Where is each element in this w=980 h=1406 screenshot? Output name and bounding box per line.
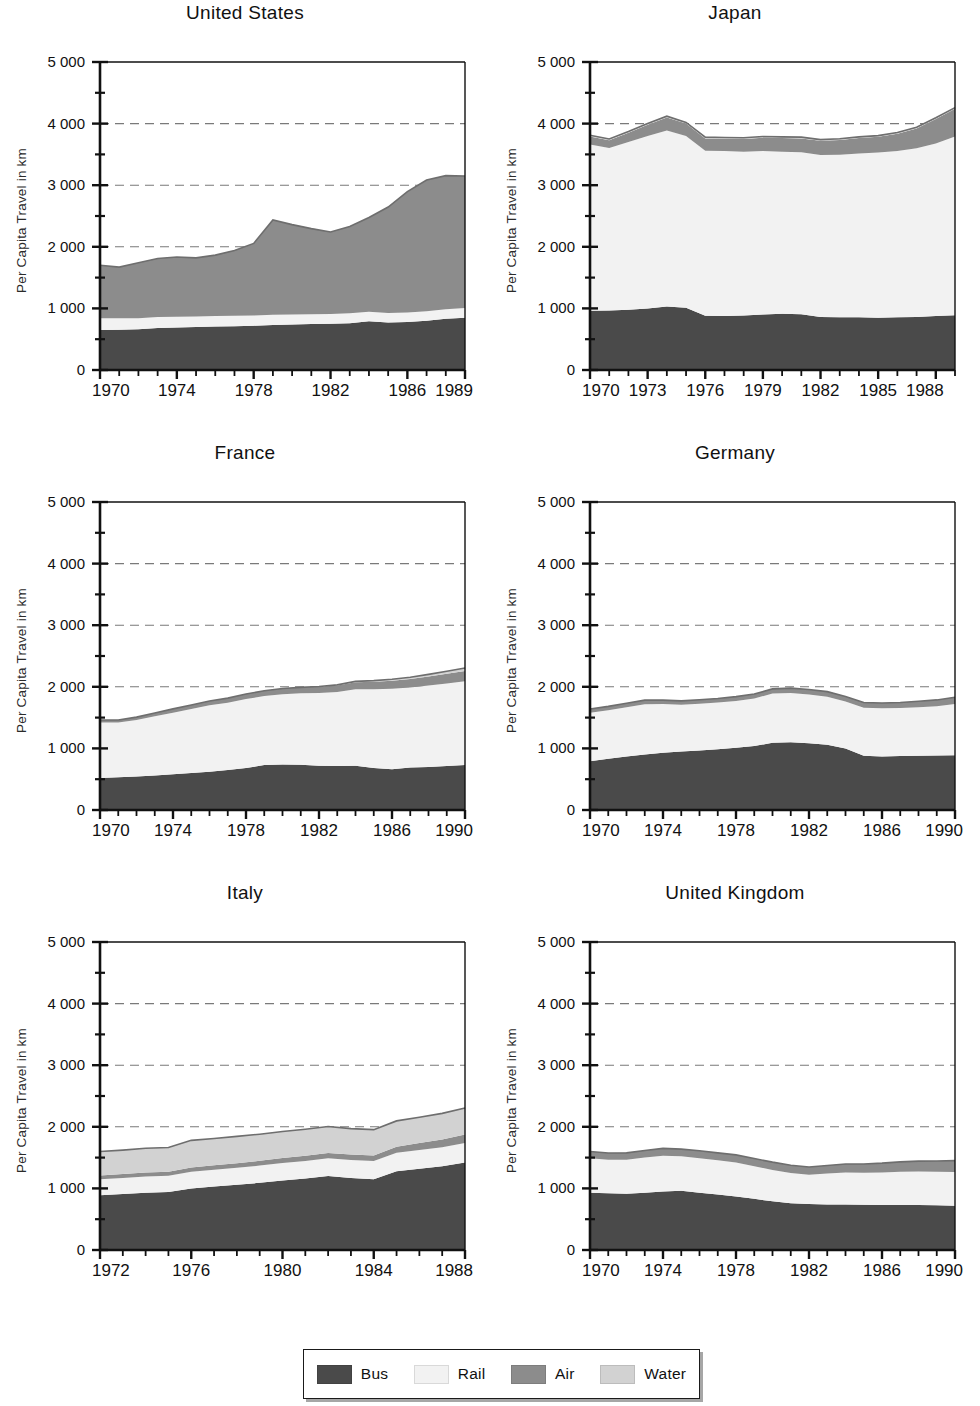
svg-text:3 000: 3 000 <box>537 616 575 633</box>
svg-text:1972: 1972 <box>92 1261 130 1280</box>
svg-text:1976: 1976 <box>172 1261 210 1280</box>
svg-text:1978: 1978 <box>717 1261 755 1280</box>
svg-text:1988: 1988 <box>435 1261 473 1280</box>
chart-panel-united-kingdom: United Kingdom Per Capita Travel in km 0… <box>490 880 980 1320</box>
svg-text:0: 0 <box>77 361 85 378</box>
svg-text:3 000: 3 000 <box>537 1056 575 1073</box>
svg-text:1990: 1990 <box>925 1261 963 1280</box>
svg-text:1976: 1976 <box>686 381 724 400</box>
svg-text:5 000: 5 000 <box>47 53 85 70</box>
svg-text:0: 0 <box>567 361 575 378</box>
chart-legend: Bus Rail Air Water <box>303 1349 700 1399</box>
legend-label-air: Air <box>555 1365 575 1383</box>
svg-text:1986: 1986 <box>388 381 426 400</box>
plot-area-united-states: 01 0002 0003 0004 0005 00019701974197819… <box>0 0 490 440</box>
svg-text:5 000: 5 000 <box>537 53 575 70</box>
svg-text:1986: 1986 <box>863 1261 901 1280</box>
svg-text:2 000: 2 000 <box>47 678 85 695</box>
svg-text:1970: 1970 <box>92 381 130 400</box>
svg-text:1 000: 1 000 <box>537 299 575 316</box>
svg-text:4 000: 4 000 <box>537 555 575 572</box>
svg-text:1979: 1979 <box>744 381 782 400</box>
svg-text:1986: 1986 <box>373 821 411 840</box>
svg-text:1985: 1985 <box>859 381 897 400</box>
svg-text:1970: 1970 <box>582 381 620 400</box>
plot-area-italy: 01 0002 0003 0004 0005 00019721976198019… <box>0 880 490 1320</box>
svg-text:1974: 1974 <box>158 381 196 400</box>
svg-text:0: 0 <box>77 1241 85 1258</box>
svg-text:0: 0 <box>77 801 85 818</box>
svg-text:1989: 1989 <box>435 381 473 400</box>
legend-item-bus: Bus <box>317 1365 388 1384</box>
svg-text:1 000: 1 000 <box>47 1179 85 1196</box>
svg-text:1980: 1980 <box>264 1261 302 1280</box>
chart-panel-germany: Germany Per Capita Travel in km 01 0002 … <box>490 440 980 880</box>
small-multiples-grid: United States Per Capita Travel in km 01… <box>0 0 980 1320</box>
legend-label-bus: Bus <box>361 1365 388 1383</box>
svg-text:1978: 1978 <box>227 821 265 840</box>
svg-text:1974: 1974 <box>154 821 192 840</box>
svg-text:2 000: 2 000 <box>47 1118 85 1135</box>
svg-text:2 000: 2 000 <box>537 678 575 695</box>
svg-text:1978: 1978 <box>717 821 755 840</box>
svg-text:1970: 1970 <box>92 821 130 840</box>
svg-text:1973: 1973 <box>629 381 667 400</box>
plot-area-germany: 01 0002 0003 0004 0005 00019701974197819… <box>490 440 980 880</box>
svg-text:1990: 1990 <box>925 821 963 840</box>
legend-item-water: Water <box>600 1365 686 1384</box>
legend-label-rail: Rail <box>458 1365 486 1383</box>
svg-text:1982: 1982 <box>312 381 350 400</box>
svg-text:1 000: 1 000 <box>537 1179 575 1196</box>
svg-text:0: 0 <box>567 1241 575 1258</box>
svg-text:1988: 1988 <box>906 381 944 400</box>
svg-text:4 000: 4 000 <box>47 995 85 1012</box>
plot-area-japan: 01 0002 0003 0004 0005 00019701973197619… <box>490 0 980 440</box>
svg-text:3 000: 3 000 <box>47 616 85 633</box>
legend-item-rail: Rail <box>414 1365 486 1384</box>
chart-panel-japan: Japan Per Capita Travel in km 01 0002 00… <box>490 0 980 440</box>
svg-text:1984: 1984 <box>355 1261 393 1280</box>
chart-panel-united-states: United States Per Capita Travel in km 01… <box>0 0 490 440</box>
svg-text:1986: 1986 <box>863 821 901 840</box>
svg-text:2 000: 2 000 <box>537 238 575 255</box>
svg-text:3 000: 3 000 <box>47 1056 85 1073</box>
legend-swatch-bus <box>317 1365 352 1384</box>
svg-text:1982: 1982 <box>802 381 840 400</box>
svg-text:5 000: 5 000 <box>47 493 85 510</box>
svg-text:1974: 1974 <box>644 821 682 840</box>
svg-text:1 000: 1 000 <box>47 739 85 756</box>
svg-text:1982: 1982 <box>300 821 338 840</box>
legend-swatch-air <box>511 1365 546 1384</box>
svg-text:4 000: 4 000 <box>47 115 85 132</box>
svg-text:1 000: 1 000 <box>47 299 85 316</box>
svg-text:3 000: 3 000 <box>47 176 85 193</box>
svg-text:5 000: 5 000 <box>47 933 85 950</box>
legend-label-water: Water <box>644 1365 686 1383</box>
svg-text:1974: 1974 <box>644 1261 682 1280</box>
svg-text:3 000: 3 000 <box>537 176 575 193</box>
plot-area-united-kingdom: 01 0002 0003 0004 0005 00019701974197819… <box>490 880 980 1320</box>
chart-panel-italy: Italy Per Capita Travel in km 01 0002 00… <box>0 880 490 1320</box>
svg-text:5 000: 5 000 <box>537 493 575 510</box>
legend-item-air: Air <box>511 1365 575 1384</box>
svg-text:1982: 1982 <box>790 821 828 840</box>
svg-text:5 000: 5 000 <box>537 933 575 950</box>
svg-text:1970: 1970 <box>582 821 620 840</box>
svg-text:2 000: 2 000 <box>47 238 85 255</box>
svg-text:4 000: 4 000 <box>537 995 575 1012</box>
svg-text:1978: 1978 <box>235 381 273 400</box>
plot-area-france: 01 0002 0003 0004 0005 00019701974197819… <box>0 440 490 880</box>
svg-text:2 000: 2 000 <box>537 1118 575 1135</box>
svg-text:0: 0 <box>567 801 575 818</box>
svg-text:1982: 1982 <box>790 1261 828 1280</box>
legend-swatch-water <box>600 1365 635 1384</box>
svg-text:4 000: 4 000 <box>537 115 575 132</box>
svg-text:1970: 1970 <box>582 1261 620 1280</box>
svg-text:4 000: 4 000 <box>47 555 85 572</box>
legend-swatch-rail <box>414 1365 449 1384</box>
svg-text:1 000: 1 000 <box>537 739 575 756</box>
svg-text:1990: 1990 <box>435 821 473 840</box>
chart-panel-france: France Per Capita Travel in km 01 0002 0… <box>0 440 490 880</box>
